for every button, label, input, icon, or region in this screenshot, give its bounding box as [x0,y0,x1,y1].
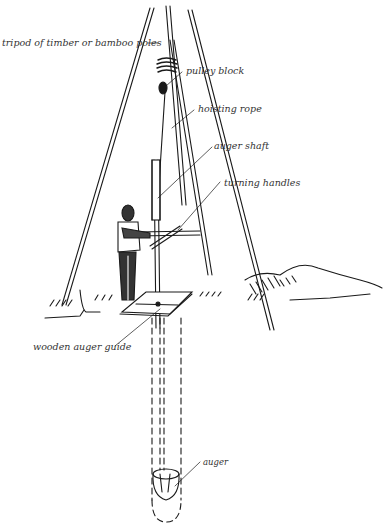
label-auger: auger [203,458,228,467]
drawing [0,0,383,530]
pulley-block [159,82,167,94]
label-tripod: tripod of timber or bamboo poles [2,38,162,48]
auger-well-diagram: tripod of timber or bamboo poles pulley … [0,0,383,530]
auger-bit [153,469,179,500]
label-auger-shaft: auger shaft [214,141,269,151]
label-wooden-auger-guide: wooden auger guide [33,342,131,352]
left-foot [45,290,100,318]
label-hoisting-rope: hoisting rope [198,104,262,114]
label-pulley-block: pulley block [186,66,244,76]
tripod-poles [62,6,274,330]
person [118,205,150,300]
spoil-heap [245,265,382,300]
label-turning-handles: turning handles [224,178,300,188]
